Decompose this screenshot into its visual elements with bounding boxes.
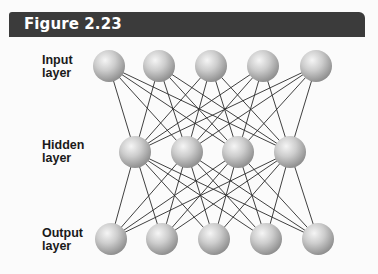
hidden-node-3 — [222, 136, 254, 168]
figure-page: Figure 2.23 Input layer Hidden layer Out… — [0, 0, 378, 274]
hidden-node-4 — [274, 136, 306, 168]
input-node-2 — [143, 50, 175, 82]
input-node-3 — [195, 50, 227, 82]
input-node-5 — [300, 50, 332, 82]
output-layer-label-line2: layer — [42, 240, 83, 253]
neuron-nodes — [93, 50, 334, 255]
input-node-1 — [93, 50, 125, 82]
output-node-3 — [198, 223, 230, 255]
output-layer-label: Output layer — [42, 227, 83, 253]
output-node-5 — [302, 223, 334, 255]
connection-line — [111, 152, 187, 239]
hidden-node-1 — [119, 136, 151, 168]
connection-line — [238, 66, 316, 152]
hidden-layer-label-line2: layer — [42, 152, 84, 165]
input-node-4 — [247, 50, 279, 82]
input-layer-label-line2: layer — [42, 67, 73, 80]
connection-line — [109, 66, 187, 152]
output-node-4 — [250, 223, 282, 255]
hidden-layer-label: Hidden layer — [42, 139, 84, 165]
output-node-2 — [146, 223, 178, 255]
input-layer-label: Input layer — [42, 54, 73, 80]
output-node-1 — [95, 223, 127, 255]
hidden-node-2 — [171, 136, 203, 168]
